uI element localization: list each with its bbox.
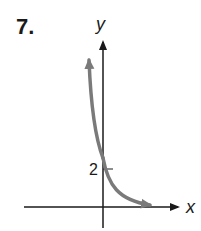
curve-lower-branch bbox=[103, 158, 150, 205]
exponential-graph: 2 y x bbox=[0, 0, 201, 231]
y-tick-label: 2 bbox=[89, 161, 98, 178]
y-axis-label: y bbox=[94, 14, 106, 34]
curve-upper-branch bbox=[89, 60, 103, 158]
x-axis-label: x bbox=[185, 197, 196, 217]
